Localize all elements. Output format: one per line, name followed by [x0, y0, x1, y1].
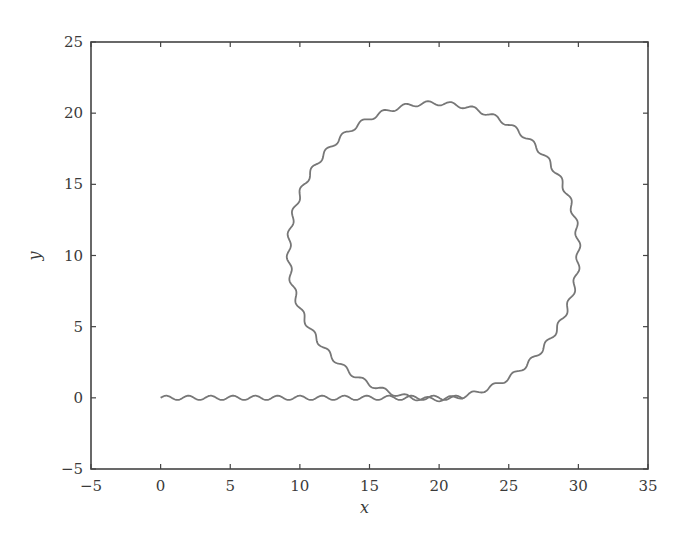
x-tick-label: 30: [569, 477, 588, 495]
y-tick-label: 0: [73, 389, 83, 407]
y-tick-label: 10: [64, 247, 83, 265]
plot-frame: [91, 42, 648, 469]
trajectory-path: [161, 396, 463, 400]
y-tick-label: 15: [64, 175, 83, 193]
x-tick-label: 25: [499, 477, 518, 495]
x-tick-labels: −505101520253035: [80, 477, 658, 495]
x-tick-label: 20: [430, 477, 449, 495]
line-chart: −505101520253035 −50510152025 x y: [0, 0, 685, 551]
y-tick-labels: −50510152025: [61, 33, 83, 478]
x-tick-label: 0: [156, 477, 166, 495]
x-tick-label: 10: [290, 477, 309, 495]
axis-ticks: [91, 42, 648, 469]
x-tick-label: −5: [80, 477, 102, 495]
y-axis-label: y: [25, 251, 44, 262]
trajectory-path: [287, 101, 581, 401]
y-tick-label: −5: [61, 460, 83, 478]
y-tick-label: 25: [64, 33, 83, 51]
x-axis-label: x: [360, 498, 369, 517]
y-tick-label: 5: [73, 318, 83, 336]
x-tick-label: 15: [360, 477, 379, 495]
y-tick-label: 20: [64, 104, 83, 122]
x-tick-label: 5: [225, 477, 235, 495]
x-tick-label: 35: [638, 477, 657, 495]
trajectory-curve: [161, 101, 581, 401]
